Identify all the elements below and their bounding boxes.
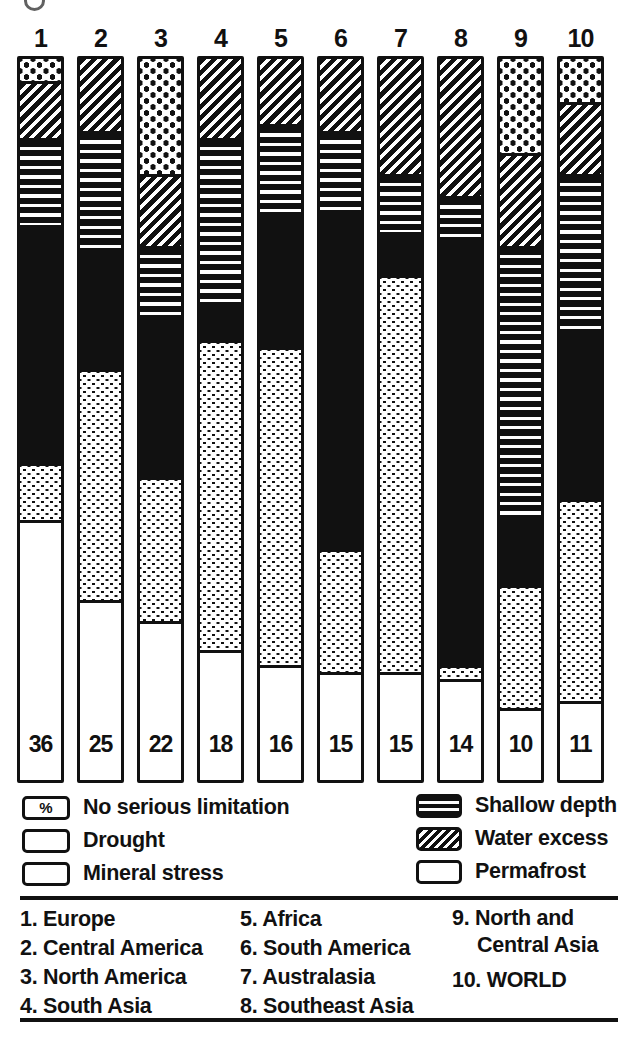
segment-water — [80, 59, 121, 131]
segment-mineral — [440, 239, 481, 664]
divider-bottom — [20, 1018, 618, 1022]
stacked-bar: 11 — [557, 56, 604, 783]
segment-drought — [140, 477, 181, 621]
region-item: 9. North and — [452, 905, 598, 932]
no-limitation-value: 36 — [20, 731, 61, 758]
region-item: 7. Australasia — [240, 963, 413, 992]
segment-mineral — [560, 333, 601, 499]
legend-item-drought: Drought — [22, 824, 289, 857]
segment-shallow — [80, 131, 121, 254]
bar-column-4: 418 — [197, 24, 244, 783]
segment-drought — [500, 585, 541, 708]
no-limitation-value: 15 — [380, 731, 421, 758]
no-limitation-value: 15 — [320, 731, 361, 758]
region-key-column-3: 9. North and Central Asia 10. WORLD — [452, 905, 598, 994]
segment-mineral — [320, 210, 361, 549]
segment-none — [200, 650, 241, 780]
bar-number-label: 1 — [17, 24, 64, 56]
segment-water — [200, 59, 241, 138]
bar-number-label: 8 — [437, 24, 484, 56]
legend-label: Permafrost — [475, 859, 586, 884]
segment-water — [560, 102, 601, 174]
segment-drought — [440, 665, 481, 679]
segment-drought — [560, 499, 601, 701]
stacked-bar-chart: 1362253224185166157158149101011 — [0, 24, 640, 790]
bar-number-label: 6 — [317, 24, 364, 56]
stacked-bar: 25 — [77, 56, 124, 783]
bar-column-6: 615 — [317, 24, 364, 783]
legend-item-mineral-stress: Mineral stress — [22, 857, 289, 890]
segment-mineral — [80, 254, 121, 369]
water-excess-swatch — [416, 827, 462, 851]
region-item: 3. North America — [20, 963, 203, 992]
stacked-bar: 22 — [137, 56, 184, 783]
segment-drought — [260, 347, 301, 664]
legend-label: Water excess — [475, 826, 608, 851]
segment-mineral — [500, 520, 541, 585]
legend-item-shallow-depth: Shallow depth — [416, 789, 617, 822]
region-item: 6. South America — [240, 934, 413, 963]
stacked-bar: 10 — [497, 56, 544, 783]
no-limitation-value: 22 — [140, 731, 181, 758]
segment-permafrost — [140, 59, 181, 174]
stacked-bar: 14 — [437, 56, 484, 783]
legend-label: No serious limitation — [83, 795, 289, 820]
stacked-bar: 15 — [317, 56, 364, 783]
legend-column-left: % No serious limitation Drought Mineral … — [22, 791, 289, 890]
bar-number-label: 3 — [137, 24, 184, 56]
segment-water — [260, 59, 301, 124]
segment-none — [320, 672, 361, 780]
segment-water — [20, 81, 61, 139]
bar-column-8: 814 — [437, 24, 484, 783]
segment-shallow — [380, 174, 421, 232]
segment-mineral — [260, 218, 301, 348]
no-limitation-value: 10 — [500, 731, 541, 758]
segment-shallow — [320, 131, 361, 210]
region-item: 5. Africa — [240, 905, 413, 934]
segment-permafrost — [560, 59, 601, 102]
legend-label: Mineral stress — [83, 861, 223, 886]
segment-drought — [200, 340, 241, 650]
segment-shallow — [260, 124, 301, 218]
segment-drought — [20, 463, 61, 521]
segment-shallow — [440, 196, 481, 239]
shallow-depth-swatch — [416, 794, 462, 818]
cropped-caption-fragment — [24, 0, 45, 11]
legend-column-right: Shallow depth Water excess Permafrost — [416, 789, 617, 888]
segment-none — [440, 679, 481, 780]
segment-drought — [80, 369, 121, 600]
stacked-bar: 18 — [197, 56, 244, 783]
bar-column-9: 910 — [497, 24, 544, 783]
bar-number-label: 4 — [197, 24, 244, 56]
region-item-wrap: Central Asia — [477, 932, 598, 959]
region-item: 1. Europe — [20, 905, 203, 934]
bar-number-label: 5 — [257, 24, 304, 56]
stacked-bar: 36 — [17, 56, 64, 783]
no-serious-limitation-swatch: % — [22, 796, 70, 820]
segment-water — [140, 174, 181, 246]
divider-top — [20, 896, 618, 900]
segment-permafrost — [500, 59, 541, 153]
no-limitation-value: 11 — [560, 731, 601, 758]
permafrost-swatch — [416, 860, 462, 884]
segment-water — [320, 59, 361, 131]
segment-drought — [320, 549, 361, 672]
bar-column-5: 516 — [257, 24, 304, 783]
segment-mineral — [140, 319, 181, 478]
bar-number-label: 10 — [557, 24, 604, 56]
drought-swatch — [22, 829, 70, 853]
no-limitation-value: 25 — [80, 731, 121, 758]
stacked-bar: 16 — [257, 56, 304, 783]
stacked-bar: 15 — [377, 56, 424, 783]
region-key-column-1: 1. Europe 2. Central America 3. North Am… — [20, 905, 203, 1021]
segment-drought — [380, 275, 421, 672]
bar-number-label: 7 — [377, 24, 424, 56]
segment-water — [500, 153, 541, 247]
segment-none — [380, 672, 421, 780]
no-limitation-value: 14 — [440, 731, 481, 758]
legend-label: Shallow depth — [475, 793, 617, 818]
segment-shallow — [140, 246, 181, 318]
bar-column-1: 136 — [17, 24, 64, 783]
segment-none — [260, 665, 301, 780]
segment-shallow — [20, 138, 61, 225]
